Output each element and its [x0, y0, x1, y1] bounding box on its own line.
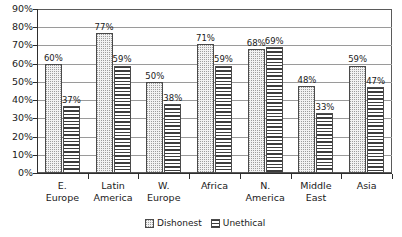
x-axis-tick	[240, 174, 241, 179]
x-axis-tick	[291, 174, 292, 179]
y-axis-tick-label: 60%	[0, 59, 33, 69]
bar-dishonest-e-europe	[45, 64, 62, 173]
legend-swatch-unethical-icon	[211, 219, 220, 228]
x-axis-tick	[392, 174, 393, 179]
y-axis-tick-label: 30%	[0, 113, 33, 123]
x-axis-tick	[341, 174, 342, 179]
bar-unethical-e-europe	[63, 106, 80, 173]
bar-value-label: 71%	[194, 34, 217, 43]
y-axis-tick-label: 70%	[0, 40, 33, 50]
x-axis-line	[37, 173, 392, 174]
y-axis-tick-label: 90%	[0, 4, 33, 14]
bar-value-label: 50%	[143, 72, 166, 81]
x-axis-category-label: Asia	[335, 180, 398, 203]
x-axis-tick	[88, 174, 89, 179]
bar-value-label: 60%	[42, 54, 65, 63]
legend-label-unethical: Unethical	[223, 218, 266, 228]
bar-chart: 0%10%20%30%40%50%60%70%80%90% 60%37%77%5…	[0, 0, 402, 237]
legend-swatch-dishonest-icon	[145, 219, 154, 228]
y-axis-tick-label: 50%	[0, 77, 33, 87]
bar-value-label: 69%	[263, 37, 286, 46]
y-axis-tick-label: 40%	[0, 95, 33, 105]
bar-value-label: 33%	[313, 103, 336, 112]
bar-dishonest-n-america	[248, 49, 265, 173]
chart-legend: Dishonest Unethical	[145, 218, 265, 228]
bar-value-label: 48%	[295, 76, 318, 85]
bar-unethical-n-america	[266, 47, 283, 173]
y-axis-tick-label: 0%	[0, 168, 33, 178]
bar-value-label: 59%	[111, 55, 134, 64]
x-axis-category-line	[335, 192, 398, 204]
bar-value-label: 38%	[161, 94, 184, 103]
legend-item-unethical: Unethical	[211, 218, 266, 228]
bar-unethical-middle-east	[316, 113, 333, 173]
x-axis-tick	[138, 174, 139, 179]
bar-unethical-latin-america	[114, 66, 131, 174]
bar-dishonest-middle-east	[298, 86, 315, 173]
bar-value-label: 37%	[60, 96, 83, 105]
x-axis-category-line: Asia	[335, 180, 398, 192]
legend-item-dishonest: Dishonest	[145, 218, 202, 228]
bar-unethical-africa	[215, 66, 232, 174]
bar-value-label: 59%	[212, 55, 235, 64]
y-axis-tick-label: 20%	[0, 132, 33, 142]
y-axis-tick-label: 80%	[0, 22, 33, 32]
bar-dishonest-latin-america	[96, 33, 113, 173]
bar-unethical-w-europe	[164, 104, 181, 173]
bar-value-label: 47%	[364, 77, 387, 86]
bar-value-label: 59%	[346, 55, 369, 64]
x-axis-tick	[189, 174, 190, 179]
legend-label-dishonest: Dishonest	[157, 218, 202, 228]
y-axis-tick-label: 10%	[0, 150, 33, 160]
bar-unethical-asia	[367, 87, 384, 173]
bar-value-label: 77%	[93, 23, 116, 32]
